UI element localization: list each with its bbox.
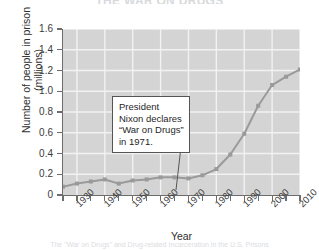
y-tick-mark [57,111,62,112]
y-tick-label: 1.4 [39,45,53,55]
y-tick-mark [57,49,62,50]
y-tick-mark [57,174,62,175]
y-axis-line [62,29,63,196]
y-tick-mark [57,132,62,133]
y-tick-mark [57,194,62,195]
y-tick-label: 0.6 [39,128,53,138]
y-tick-label: 0.4 [39,149,53,159]
figure-caption: The "War on Drugs" and Drug-related Inca… [0,241,319,250]
x-axis-line [62,195,301,196]
y-tick-label: 0.8 [39,107,53,117]
x-tick-mark [62,196,63,201]
y-tick-mark [57,91,62,92]
y-tick-mark [57,28,62,29]
y-tick-label: 1.2 [39,66,53,76]
y-tick-label: 1.6 [39,24,53,34]
y-tick-label: 0 [47,190,53,200]
y-tick-mark [57,70,62,71]
figure-title: THE WAR ON DRUGS [0,0,319,4]
y-tick-label: 0.2 [39,169,53,179]
prison-population-line-chart: Number of people in prison (millions) 1.… [0,8,319,240]
x-tick-label: 2010 [297,187,319,209]
annotation-callout: President Nixon declares “War on Drugs” … [112,96,190,153]
y-tick-label: 1.0 [39,86,53,96]
y-tick-mark [57,153,62,154]
